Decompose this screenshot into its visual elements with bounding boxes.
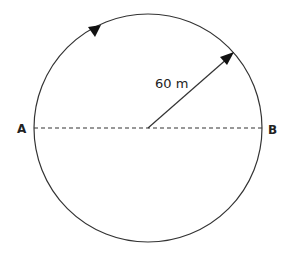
point-b-label: B — [268, 123, 277, 137]
point-a-label: A — [17, 122, 27, 136]
circle-diagram: 60 m A B — [0, 0, 289, 254]
radius-label: 60 m — [155, 76, 188, 91]
direction-arrow-icon — [88, 25, 101, 37]
radius-line — [148, 58, 228, 128]
